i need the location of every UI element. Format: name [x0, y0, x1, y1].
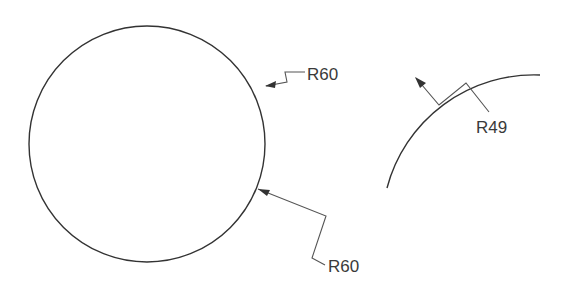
- arc-shape: [387, 75, 540, 188]
- radius-dimension-r49: R49: [415, 77, 507, 137]
- dimension-label: R49: [476, 118, 507, 137]
- arrow-head-icon: [265, 81, 276, 88]
- arrow-head-icon: [258, 189, 270, 196]
- cad-drawing: R60 R60 R49: [0, 0, 570, 290]
- dimension-label: R60: [307, 65, 338, 84]
- leader-line: [416, 78, 489, 112]
- radius-dimension-r60-upper: R60: [265, 65, 338, 88]
- radius-dimension-r60-lower: R60: [258, 189, 359, 276]
- leader-line: [258, 189, 326, 265]
- arrow-head-icon: [415, 77, 426, 88]
- circle-shape: [29, 26, 265, 262]
- dimension-label: R60: [328, 257, 359, 276]
